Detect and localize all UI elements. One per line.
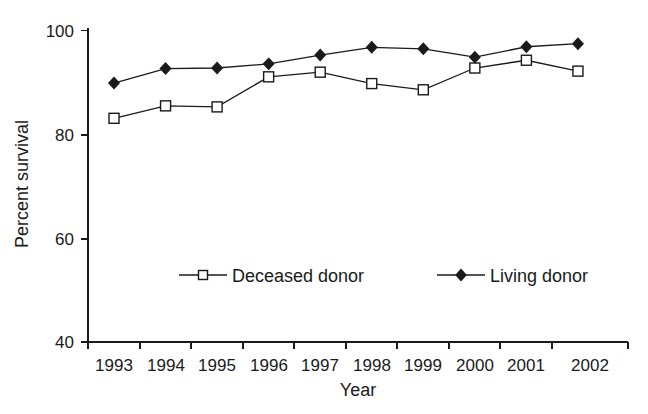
legend-marker-open-square [199, 271, 208, 280]
y-tick-label-60: 60 [55, 230, 74, 249]
x-tick-label-1993: 1993 [95, 356, 133, 375]
x-tick-label-1998: 1998 [353, 356, 391, 375]
x-tick-label-1996: 1996 [250, 356, 288, 375]
chart-figure: 100 80 60 40 Percent survival 1993 1994 … [0, 0, 648, 414]
data-point-open-square [470, 63, 480, 73]
data-point-filled-diamond [212, 62, 222, 73]
legend-entry-deceased[interactable]: Deceased donor [179, 266, 364, 286]
data-point-open-square [418, 85, 428, 95]
data-point-open-square [367, 79, 377, 89]
legend-marker-filled-diamond [456, 270, 466, 281]
x-tick-label-1995: 1995 [198, 356, 236, 375]
x-tick-label-1994: 1994 [147, 356, 185, 375]
legend-label-deceased: Deceased donor [232, 266, 364, 286]
series-living-donor [109, 38, 583, 89]
data-point-filled-diamond [263, 58, 273, 69]
data-point-open-square [521, 55, 531, 65]
data-point-filled-diamond [573, 38, 583, 49]
y-axis-ticks [81, 31, 88, 342]
x-tick-label-2000: 2000 [456, 356, 494, 375]
series-deceased-donor [109, 55, 583, 123]
data-point-open-square [315, 67, 325, 77]
data-point-filled-diamond [160, 63, 170, 74]
data-point-open-square [109, 113, 119, 123]
data-point-open-square [212, 102, 222, 112]
data-point-open-square [161, 101, 171, 111]
y-axis-title: Percent survival [12, 120, 32, 248]
y-tick-label-40: 40 [55, 333, 74, 352]
survival-line-chart: 100 80 60 40 Percent survival 1993 1994 … [0, 0, 648, 414]
y-tick-label-80: 80 [55, 126, 74, 145]
x-tick-label-1999: 1999 [404, 356, 442, 375]
data-point-open-square [264, 72, 274, 82]
x-tick-label-2002: 2002 [571, 356, 609, 375]
axis-lines [88, 28, 628, 342]
legend-label-living: Living donor [490, 266, 588, 286]
data-point-open-square [573, 66, 583, 76]
x-tick-label-1997: 1997 [301, 356, 339, 375]
series-layer [109, 38, 583, 123]
data-point-filled-diamond [109, 77, 119, 88]
data-point-filled-diamond [418, 43, 428, 54]
data-point-filled-diamond [315, 49, 325, 60]
data-point-filled-diamond [367, 42, 377, 53]
legend-entry-living[interactable]: Living donor [437, 266, 588, 286]
x-axis-title: Year [340, 380, 376, 400]
y-tick-label-100: 100 [46, 22, 74, 41]
data-point-filled-diamond [470, 52, 480, 63]
data-point-filled-diamond [521, 41, 531, 52]
chart-legend: Deceased donor Living donor [179, 266, 588, 286]
x-axis-ticks [88, 342, 628, 349]
x-tick-label-2001: 2001 [507, 356, 545, 375]
